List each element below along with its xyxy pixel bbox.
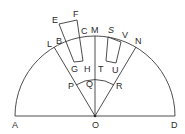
- centre-point-O: [94, 115, 97, 118]
- label-O: O: [92, 120, 99, 130]
- diagram-canvas: A O D L B C M S V N E F G H T U P Q R: [0, 0, 185, 134]
- label-F: F: [73, 9, 79, 19]
- label-M: M: [91, 25, 99, 35]
- label-U: U: [112, 65, 119, 75]
- label-G: G: [71, 64, 78, 74]
- label-R: R: [116, 81, 123, 91]
- rectangle-STUV: [106, 37, 121, 63]
- label-B: B: [56, 36, 62, 46]
- label-T: T: [98, 64, 104, 74]
- label-E: E: [52, 15, 58, 25]
- label-Q: Q: [86, 79, 93, 89]
- label-D: D: [171, 120, 178, 130]
- rectangle-EFHG: [59, 20, 83, 62]
- label-S: S: [108, 25, 114, 35]
- semicircle-diagram: A O D L B C M S V N E F G H T U P Q R: [0, 0, 185, 134]
- label-N: N: [135, 36, 142, 46]
- label-A: A: [12, 120, 18, 130]
- label-V: V: [122, 30, 128, 40]
- label-P: P: [68, 81, 74, 91]
- label-L: L: [47, 39, 52, 49]
- label-H: H: [84, 64, 91, 74]
- label-C: C: [81, 26, 88, 36]
